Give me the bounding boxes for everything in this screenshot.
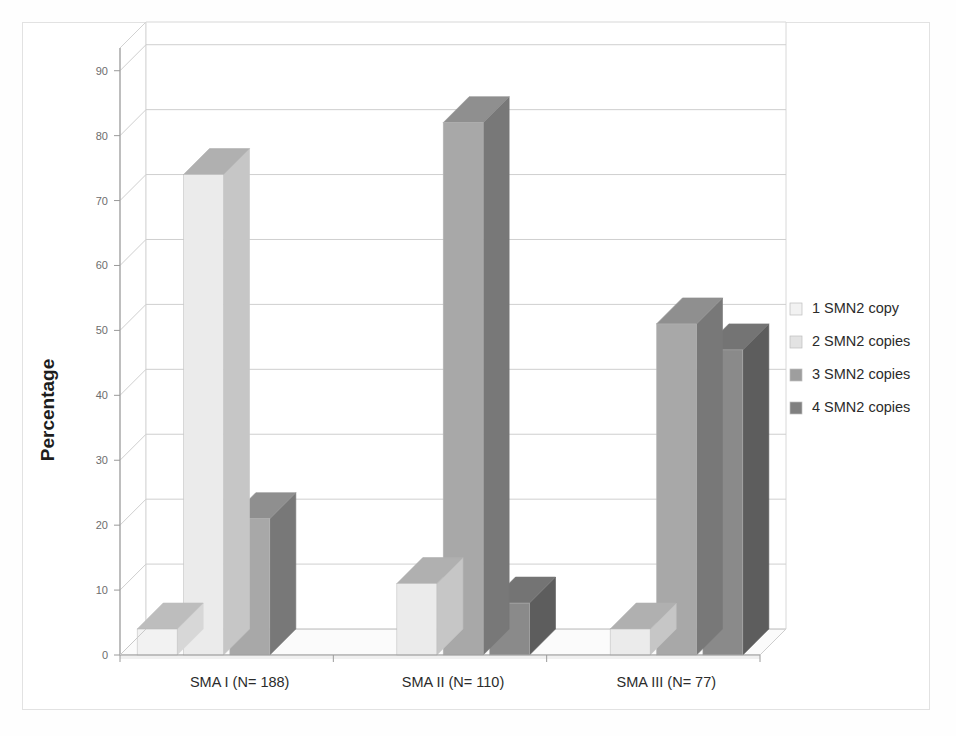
y-tick-label-40: 40 [96,389,108,401]
y-tick-label-50: 50 [96,324,108,336]
y-tick-label-20: 20 [96,519,108,531]
y-tick-label-90: 90 [96,65,108,77]
bar-3-3 [657,298,723,655]
x-category-label-2: SMA II (N= 110) [402,674,504,690]
y-tick-label-80: 80 [96,130,108,142]
y-tick-label-10: 10 [96,584,108,596]
y-axis-tick-labels: 0102030405060708090 [96,65,120,661]
x-category-label-3: SMA III (N= 77) [617,674,717,690]
legend-label-3: 3 SMN2 copies [812,366,910,382]
bar-chart-canvas: 0102030405060708090 SMA I (N= 188)SMA II… [0,0,956,736]
legend-label-2: 2 SMN2 copies [812,333,910,349]
chart-legend: 1 SMN2 copy2 SMN2 copies3 SMN2 copies4 S… [790,300,910,415]
x-axis-category-labels: SMA I (N= 188)SMA II (N= 110)SMA III (N=… [190,674,716,690]
y-axis-title: Percentage [37,359,58,461]
legend-swatch-2 [790,336,802,348]
legend-label-1: 1 SMN2 copy [812,300,900,316]
y-tick-label-70: 70 [96,195,108,207]
bar-1-2 [184,149,250,655]
legend-swatch-1 [790,303,802,315]
y-tick-label-0: 0 [102,649,108,661]
y-tick-label-60: 60 [96,259,108,271]
legend-swatch-4 [790,402,802,414]
legend-swatch-3 [790,369,802,381]
chart-figure: 0102030405060708090 SMA I (N= 188)SMA II… [0,0,956,736]
y-tick-label-30: 30 [96,454,108,466]
legend-label-4: 4 SMN2 copies [812,399,910,415]
x-category-label-1: SMA I (N= 188) [190,674,290,690]
